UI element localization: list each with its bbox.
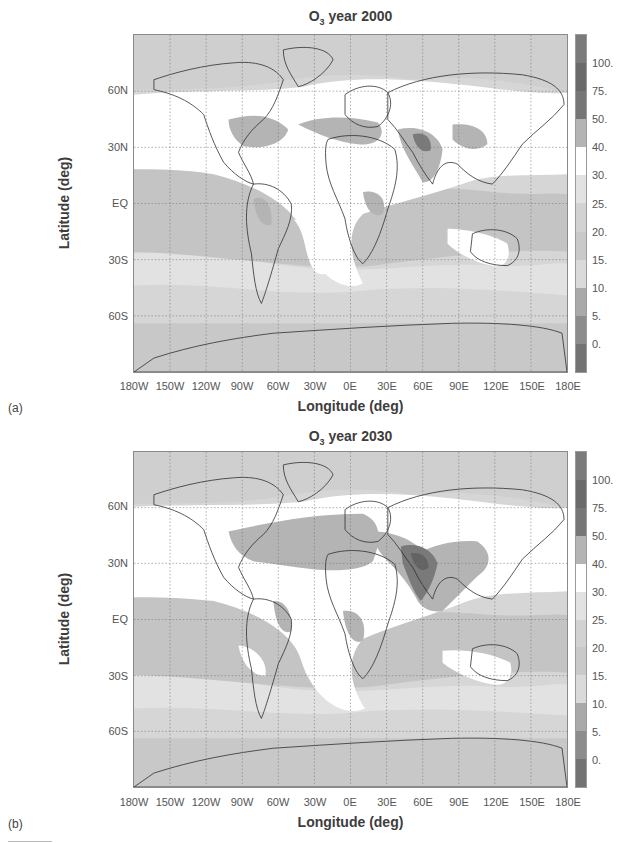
y-tick-60s: 60S (96, 725, 128, 737)
colorbar-label: 20. (592, 226, 607, 238)
panel-letter-b: (b) (8, 817, 23, 831)
x-tick: 180E (548, 796, 588, 808)
colorbar-label: 100. (592, 474, 613, 486)
map-plot-b (133, 451, 568, 788)
ozone-map-a (134, 35, 567, 372)
chart-title-b: O3 year 2030 (133, 428, 568, 447)
x-tick: 180E (548, 380, 588, 392)
y-tick-eq: EQ (96, 197, 128, 209)
colorbar-label: 30. (592, 586, 607, 598)
x-tick: 180W (114, 380, 154, 392)
y-tick-30n: 30N (96, 557, 128, 569)
panel-b: O3 year 2030 (0, 420, 621, 843)
map-plot-a (133, 34, 568, 373)
x-tick: 60W (258, 380, 298, 392)
colorbar-label: 10. (592, 698, 607, 710)
colorbar-label: 15. (592, 670, 607, 682)
colorbar-label: 0. (592, 338, 601, 350)
ozone-map-b (134, 452, 567, 787)
x-tick: 150W (150, 796, 190, 808)
y-axis-label-b: Latitude (deg) (56, 559, 72, 679)
y-tick-60n: 60N (96, 84, 128, 96)
panel-letter-a: (a) (8, 401, 23, 415)
colorbar-label: 100. (592, 57, 613, 69)
colorbar-label: 40. (592, 141, 607, 153)
colorbar-label: 0. (592, 754, 601, 766)
colorbar-b (575, 451, 587, 788)
x-tick: 120W (186, 796, 226, 808)
colorbar-a (575, 34, 587, 373)
colorbar-label: 50. (592, 530, 607, 542)
x-tick: 90E (439, 796, 479, 808)
colorbar-label: 5. (592, 726, 601, 738)
y-axis-label-a: Latitude (deg) (56, 143, 72, 263)
x-tick: 30E (367, 796, 407, 808)
footnote-rule (8, 841, 52, 842)
colorbar-label: 50. (592, 113, 607, 125)
x-tick: 30W (295, 380, 335, 392)
x-tick: 150E (512, 796, 552, 808)
colorbar-label: 30. (592, 169, 607, 181)
x-tick: 150W (150, 380, 190, 392)
colorbar-label: 75. (592, 502, 607, 514)
colorbar-label: 15. (592, 254, 607, 266)
x-axis-label-b: Longitude (deg) (133, 814, 568, 830)
x-tick: 30E (367, 380, 407, 392)
x-tick: 90W (222, 796, 262, 808)
x-tick: 120E (476, 796, 516, 808)
colorbar-label: 25. (592, 614, 607, 626)
colorbar-label: 40. (592, 558, 607, 570)
x-tick: 180W (114, 796, 154, 808)
panel-a: O3 year 2000 (0, 0, 621, 420)
x-tick: 90E (439, 380, 479, 392)
x-tick: 30W (295, 796, 335, 808)
colorbar-label: 25. (592, 198, 607, 210)
y-tick-eq: EQ (96, 613, 128, 625)
y-tick-60s: 60S (96, 310, 128, 322)
x-tick: 60W (258, 796, 298, 808)
x-tick: 60E (403, 796, 443, 808)
x-tick: 0E (330, 380, 370, 392)
x-axis-label-a: Longitude (deg) (133, 398, 568, 414)
x-tick: 60E (403, 380, 443, 392)
y-tick-60n: 60N (96, 500, 128, 512)
x-tick: 150E (512, 380, 552, 392)
colorbar-label: 10. (592, 282, 607, 294)
y-tick-30s: 30S (96, 670, 128, 682)
x-tick: 90W (222, 380, 262, 392)
colorbar-label: 5. (592, 310, 601, 322)
y-tick-30s: 30S (96, 254, 128, 266)
y-tick-30n: 30N (96, 141, 128, 153)
colorbar-label: 20. (592, 642, 607, 654)
colorbar-label: 75. (592, 85, 607, 97)
x-tick: 0E (330, 796, 370, 808)
chart-title-a: O3 year 2000 (133, 8, 568, 27)
x-tick: 120E (476, 380, 516, 392)
x-tick: 120W (186, 380, 226, 392)
